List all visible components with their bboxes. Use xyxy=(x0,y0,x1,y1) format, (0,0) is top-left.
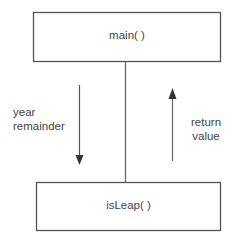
main-label: main( ) xyxy=(33,29,221,41)
down-edge-label: year remainder xyxy=(13,105,65,133)
isleap-label: isLeap( ) xyxy=(36,199,221,211)
up-arrow-icon xyxy=(169,88,177,161)
up-edge-label: return value xyxy=(191,115,221,143)
up-edge-label-line-1: return xyxy=(191,115,221,129)
up-edge-label-line-2: value xyxy=(191,129,221,143)
down-edge-label-line-2: remainder xyxy=(13,119,65,133)
down-arrow-icon xyxy=(76,85,84,165)
call-diagram: main( ) isLeap( ) year remainder return … xyxy=(0,0,236,241)
down-edge-label-line-1: year xyxy=(13,105,65,119)
